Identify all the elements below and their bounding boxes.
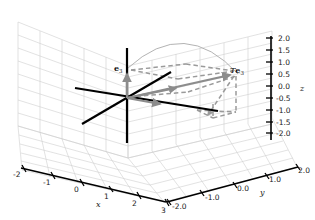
- x-tick-5: 3: [161, 206, 166, 215]
- figure-3d-vector-plot: e3 Te3 2.0 1.5 1.0 0.5 0.0 -0.5 -1.0: [0, 0, 315, 220]
- x-tick-4: 2: [132, 199, 137, 208]
- z-tick-3: 0.5: [278, 70, 290, 79]
- label-Te3-subscript: 3: [240, 70, 244, 76]
- x-axis-label: x: [96, 200, 101, 209]
- x-tick-0: -2: [13, 170, 21, 179]
- x-axis: -2 -1 0 1 2 3 x: [13, 165, 169, 215]
- z-tick-2: 1.0: [278, 58, 290, 67]
- plot-canvas: e3 Te3 2.0 1.5 1.0 0.5 0.0 -0.5 -1.0: [0, 0, 315, 220]
- y-tick-1: -1.0: [205, 193, 220, 202]
- rotation-arc: [128, 43, 238, 74]
- label-e3-subscript: 3: [119, 68, 123, 74]
- z-tick-8: -2.0: [276, 129, 291, 138]
- grid-wall-left: [18, 22, 128, 158]
- y-axis: -2.0 -1.0 0.0 1.0 2.0 y: [167, 164, 310, 211]
- z-tick-4: 0.0: [278, 82, 290, 91]
- z-axis-label: z: [299, 84, 305, 93]
- y-tick-2: 0.0: [237, 184, 249, 193]
- y-tick-4: 2.0: [298, 166, 310, 175]
- label-Te3: Te3: [230, 65, 244, 76]
- z-tick-0: 2.0: [278, 34, 290, 43]
- y-tick-3: 1.0: [269, 175, 281, 184]
- dashed-construction-box: [129, 64, 236, 118]
- grid-floor: [18, 118, 298, 202]
- z-tick-7: -1.5: [276, 118, 291, 127]
- z-tick-1: 1.5: [278, 46, 290, 55]
- z-tick-6: -1.0: [276, 106, 291, 115]
- y-axis-label: y: [259, 188, 265, 197]
- x-tick-3: 1: [104, 192, 109, 201]
- y-tick-0: -2.0: [172, 202, 187, 211]
- z-tick-5: -0.5: [276, 94, 291, 103]
- x-tick-2: 0: [74, 185, 79, 194]
- label-e3: e3: [114, 63, 123, 74]
- grid-wall-back: [128, 31, 272, 158]
- x-tick-1: -1: [43, 178, 51, 187]
